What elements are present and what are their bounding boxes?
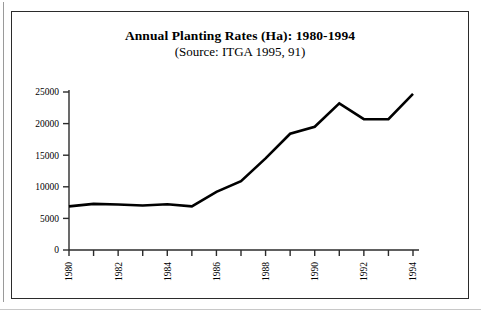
y-tick-label: 0 — [54, 245, 59, 255]
line-chart-plot: 0500010000150002000025000 19801982198419… — [12, 12, 470, 300]
x-tick-label: 1986 — [212, 262, 222, 281]
scan-edge-rule-bottom — [0, 309, 481, 310]
x-tick-label: 1984 — [163, 262, 173, 281]
y-tick-label: 5000 — [40, 214, 59, 224]
scan-edge-rule-left — [3, 2, 4, 302]
y-tick-label: 15000 — [35, 151, 59, 161]
figure-canvas: Annual Planting Rates (Ha): 1980-1994 (S… — [0, 0, 481, 317]
chart-frame: Annual Planting Rates (Ha): 1980-1994 (S… — [11, 11, 469, 299]
x-tick-label: 1992 — [359, 262, 369, 281]
data-series-line — [69, 94, 413, 206]
x-axis: 19801982198419861988199019921994 — [64, 250, 419, 281]
y-axis: 0500010000150002000025000 — [35, 87, 69, 255]
x-tick-label: 1994 — [408, 262, 418, 281]
x-tick-label: 1990 — [310, 262, 320, 281]
series-line-annual-planting-rate — [69, 94, 413, 206]
x-tick-label: 1980 — [64, 262, 74, 281]
x-tick-label: 1988 — [261, 262, 271, 281]
y-tick-label: 20000 — [35, 119, 59, 129]
y-tick-label: 10000 — [35, 182, 59, 192]
x-tick-label: 1982 — [114, 262, 124, 281]
y-tick-label: 25000 — [35, 87, 59, 97]
